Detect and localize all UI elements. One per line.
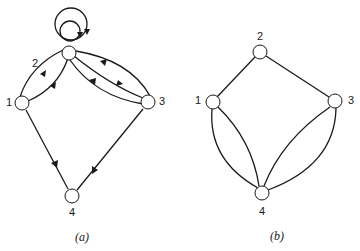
node-label-b-3: 3 [348,94,354,106]
node-label-a-3: 3 [159,95,165,107]
arrow-icon [51,160,58,168]
node-label-a-2: 2 [32,57,38,69]
node-label-a-1: 1 [6,96,12,108]
graph-figure: 1 2 3 4 (a) 1 2 3 4 (b) [0,0,360,251]
node-a-2 [62,46,76,60]
edge-a-1-4 [26,110,68,189]
edge-a-3-2-outer [76,51,150,96]
edge-a-3-2-lower [70,60,143,104]
edge-b-3-4-outer [268,108,336,190]
node-a-3 [141,95,155,109]
arrow-icon [100,59,107,66]
edge-a-2-2-outer [55,8,87,40]
edge-b-2-3 [266,56,329,97]
caption-a: (a) [75,230,89,244]
diagram-a: 1 2 3 4 (a) [6,8,165,244]
edge-b-1-4-outer [212,109,258,188]
node-b-1 [206,95,220,109]
node-label-a-4: 4 [69,206,75,218]
edge-a-3-4 [77,109,143,190]
diagram-b: 1 2 3 4 (b) [195,30,354,243]
node-b-3 [328,94,342,108]
node-b-2 [253,45,267,59]
edge-b-1-2 [217,57,255,97]
arrow-icon [40,70,46,77]
edge-a-2-2-inner [60,21,80,41]
arrow-icon [116,80,123,86]
node-label-b-2: 2 [257,30,263,42]
node-label-b-4: 4 [259,205,265,217]
node-a-1 [15,96,29,110]
node-b-4 [255,186,269,200]
node-a-4 [65,189,79,203]
caption-b: (b) [270,229,284,243]
node-label-b-1: 1 [195,94,201,106]
edge-b-3-4-inner [264,107,330,186]
